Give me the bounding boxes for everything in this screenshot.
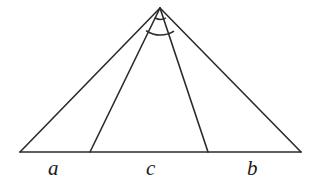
- segment-label-a: a: [48, 158, 59, 179]
- segment-label-b: b: [247, 158, 258, 179]
- segment-label-c: c: [146, 158, 155, 179]
- right-cevian-line: [160, 8, 208, 152]
- left-cevian-line: [90, 8, 160, 152]
- left-side-line: [20, 8, 160, 152]
- figure-container: a c b: [0, 0, 317, 184]
- inner-angle-arc-icon: [155, 18, 165, 19]
- right-side-line: [160, 8, 301, 152]
